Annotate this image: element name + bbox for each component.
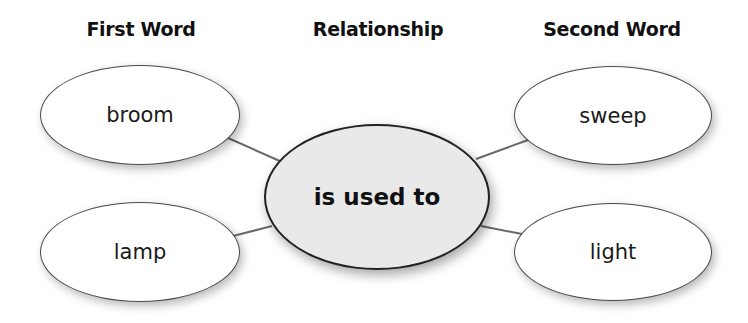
second-word-node-light: light bbox=[514, 203, 712, 301]
relationship-node: is used to bbox=[264, 124, 490, 270]
second-word-node-sweep: sweep bbox=[514, 66, 712, 165]
connector-lamp-relationship bbox=[233, 226, 272, 236]
relationship-label: is used to bbox=[314, 184, 441, 210]
second-word-label: sweep bbox=[579, 104, 646, 128]
first-word-label: broom bbox=[106, 103, 174, 127]
connector-broom-relationship bbox=[228, 138, 282, 162]
connector-relationship-sweep bbox=[476, 140, 528, 159]
first-word-label: lamp bbox=[114, 240, 167, 264]
first-word-node-lamp: lamp bbox=[40, 202, 240, 302]
connector-relationship-light bbox=[481, 226, 522, 234]
first-word-node-broom: broom bbox=[40, 65, 240, 165]
second-word-label: light bbox=[590, 240, 637, 264]
